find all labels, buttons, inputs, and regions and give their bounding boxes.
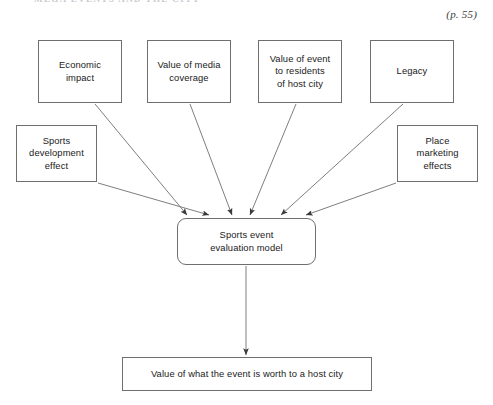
edge-residents xyxy=(250,104,296,215)
node-value-of-media-coverage[interactable]: Value of media coverage xyxy=(147,40,231,103)
diagram-page: MEGA EVENTS AND THE CITY (p. 55) Economi… xyxy=(0,0,493,405)
node-legacy[interactable]: Legacy xyxy=(370,40,454,103)
node-economic-impact[interactable]: Economic impact xyxy=(38,40,122,103)
edge-legacy xyxy=(281,104,403,215)
page-reference-label: (p. 55) xyxy=(446,8,477,20)
edge-economic-impact xyxy=(95,104,187,215)
node-place-marketing-effects[interactable]: Place marketing effects xyxy=(397,125,478,182)
node-sports-development-effect[interactable]: Sports development effect xyxy=(16,125,97,182)
node-value-to-host-city[interactable]: Value of what the event is worth to a ho… xyxy=(122,357,372,391)
edge-sports-development xyxy=(98,183,209,215)
node-value-of-event-to-residents[interactable]: Value of event to residents of host city xyxy=(258,40,342,103)
node-sports-event-evaluation-model[interactable]: Sports event evaluation model xyxy=(177,218,316,265)
edge-media-coverage xyxy=(190,104,232,215)
cropped-running-header-text: MEGA EVENTS AND THE CITY xyxy=(34,0,220,4)
cropped-running-header: MEGA EVENTS AND THE CITY xyxy=(34,0,220,4)
edge-place-marketing xyxy=(306,183,396,215)
